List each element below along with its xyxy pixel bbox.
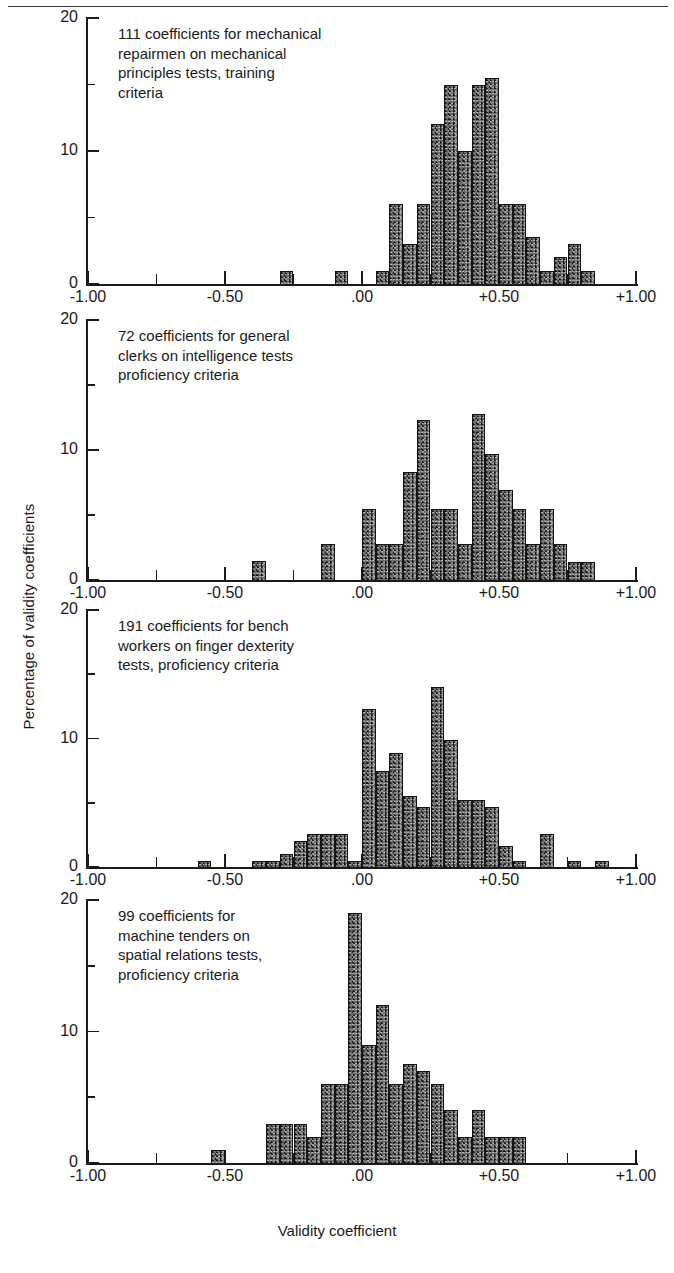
histogram-bar (252, 561, 266, 581)
x-axis-line (86, 580, 638, 582)
x-tick-label: -0.50 (190, 289, 260, 305)
histogram-bar (362, 1045, 376, 1163)
x-major-tick (224, 271, 226, 284)
x-major-tick (87, 271, 89, 284)
histogram-bar (554, 257, 568, 284)
x-tick-label: +0.50 (464, 1168, 534, 1184)
y-minor-tick (86, 384, 95, 386)
y-major-tick (86, 1031, 99, 1033)
x-axis-label: Validity coefficient (0, 1222, 674, 1239)
histogram-bar (444, 740, 458, 867)
histogram-bar (444, 1110, 458, 1163)
x-minor-tick (293, 570, 295, 580)
histogram-bar (513, 204, 527, 284)
x-tick-label: -1.00 (53, 585, 123, 601)
y-axis-line (86, 18, 88, 286)
histogram-bar (376, 271, 390, 284)
x-tick-label: .00 (327, 1168, 397, 1184)
histogram-bar (335, 834, 349, 867)
histogram-bar (417, 420, 431, 580)
histogram-bar (472, 800, 486, 867)
y-minor-tick (86, 217, 95, 219)
histogram-bar (526, 237, 540, 284)
x-minor-tick (156, 274, 158, 284)
histogram-bar (458, 151, 472, 284)
panel-caption: 72 coefficients for general clerks on in… (118, 326, 293, 385)
histogram-bar (526, 544, 540, 580)
histogram-bar (513, 1137, 527, 1163)
histogram-bar (540, 271, 554, 284)
histogram-bar (403, 244, 417, 284)
x-tick-label: +0.50 (464, 289, 534, 305)
y-major-tick (86, 150, 99, 152)
histogram-bar (472, 414, 486, 580)
panel-caption: 111 coefficients for mechanical repairme… (118, 24, 321, 102)
histogram-bar (252, 861, 266, 867)
histogram-bar (294, 1124, 308, 1163)
histogram-bar (431, 687, 445, 867)
x-tick-label: +1.00 (601, 1168, 671, 1184)
histogram-bar (499, 204, 513, 284)
figure-container: Percentage of validity coefficients Vali… (0, 0, 674, 1273)
x-tick-label: -0.50 (190, 872, 260, 888)
x-tick-label: +1.00 (601, 872, 671, 888)
histogram-bar (444, 85, 458, 285)
x-major-tick (635, 271, 637, 284)
panel-caption: 191 coefficients for bench workers on fi… (118, 616, 294, 675)
y-minor-tick (86, 802, 95, 804)
x-major-tick (361, 271, 363, 284)
histogram-bar (417, 807, 431, 867)
x-major-tick (87, 854, 89, 867)
histogram-bar (335, 271, 349, 284)
x-major-tick (635, 854, 637, 867)
y-axis-label: Percentage of validity coefficients (20, 367, 37, 867)
histogram-bar (485, 78, 499, 284)
histogram-bar (568, 861, 582, 867)
histogram-bar (198, 861, 212, 867)
y-tick-label: 20 (38, 891, 78, 907)
histogram-bar (403, 1064, 417, 1163)
x-tick-label: +1.00 (601, 289, 671, 305)
x-tick-label: +0.50 (464, 872, 534, 888)
y-axis-line (86, 900, 88, 1165)
y-major-tick (86, 899, 99, 901)
histogram-bar (335, 1084, 349, 1163)
y-major-tick (86, 17, 99, 19)
histogram-bar (417, 1071, 431, 1163)
histogram-bar (389, 544, 403, 580)
histogram-bar (431, 124, 445, 284)
histogram-bar (431, 509, 445, 581)
x-tick-label: -0.50 (190, 585, 260, 601)
y-minor-tick (86, 965, 95, 967)
histogram-bar (211, 1150, 225, 1163)
y-tick-label: 10 (38, 142, 78, 158)
x-tick-label: -0.50 (190, 1168, 260, 1184)
histogram-bar (376, 544, 390, 580)
histogram-bar (280, 271, 294, 284)
y-minor-tick (86, 1096, 95, 1098)
x-axis-line (86, 1163, 638, 1165)
x-major-tick (87, 1150, 89, 1163)
top-divider-rule (8, 6, 668, 7)
histogram-bar (362, 509, 376, 581)
y-tick-label: 10 (38, 730, 78, 746)
x-tick-label: .00 (327, 872, 397, 888)
x-tick-label: .00 (327, 289, 397, 305)
x-major-tick (635, 567, 637, 580)
histogram-bar (376, 771, 390, 867)
histogram-bar (321, 1084, 335, 1163)
x-major-tick (87, 567, 89, 580)
histogram-bar (595, 861, 609, 867)
histogram-bar (348, 861, 362, 867)
x-tick-label: -1.00 (53, 1168, 123, 1184)
x-tick-label: .00 (327, 585, 397, 601)
histogram-bar (403, 472, 417, 580)
y-major-tick (86, 738, 99, 740)
histogram-bar (294, 841, 308, 867)
histogram-bar (540, 834, 554, 867)
y-axis-line (86, 610, 88, 869)
histogram-bar (472, 1110, 486, 1163)
histogram-bar (389, 1084, 403, 1163)
histogram-bar (417, 204, 431, 284)
histogram-bar (321, 834, 335, 867)
